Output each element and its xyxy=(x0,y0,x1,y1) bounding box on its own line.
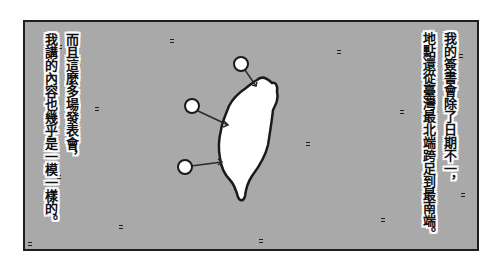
texture-mark xyxy=(95,107,99,111)
texture-mark xyxy=(259,239,263,243)
texture-mark xyxy=(306,142,310,146)
caption-left-line1: 而且這麼多場發表會， xyxy=(64,33,78,163)
texture-mark xyxy=(170,39,174,43)
caption-left-line2: 我講的內容也幾乎是一模一樣的。 xyxy=(43,33,57,228)
taiwan-island-icon xyxy=(219,78,278,201)
texture-mark xyxy=(459,54,463,58)
texture-mark xyxy=(461,193,465,197)
texture-mark xyxy=(28,242,32,246)
texture-mark xyxy=(119,225,123,229)
marker-north-icon xyxy=(234,57,248,71)
texture-mark xyxy=(337,50,341,54)
texture-mark xyxy=(58,45,62,49)
caption-right-line2: 地點還從臺灣最北端跨足到最南端。 xyxy=(421,32,435,240)
marker-south-icon xyxy=(178,160,192,174)
caption-right-line1: 我的簽書會除了日期不一， xyxy=(442,32,456,188)
texture-mark xyxy=(381,218,385,222)
texture-mark xyxy=(400,110,404,114)
marker-middle-icon xyxy=(185,99,199,113)
